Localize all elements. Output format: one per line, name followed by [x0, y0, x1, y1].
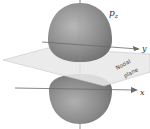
x-axis-arrowhead	[131, 87, 138, 93]
x-axis-label: x	[140, 88, 145, 97]
y-axis-label: y	[141, 44, 147, 53]
orbital-label: pz	[109, 8, 119, 19]
pz-orbital-diagram: pz y x Nodal plane	[0, 0, 150, 129]
y-axis-arrowhead	[133, 46, 140, 51]
